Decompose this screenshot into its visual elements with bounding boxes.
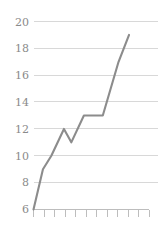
ytick-label-10: 10 bbox=[15, 150, 29, 163]
ytick-label-14: 14 bbox=[15, 96, 29, 109]
gridlines-group bbox=[34, 22, 159, 183]
chart-plot-area: 20 18 16 14 12 10 8 6 bbox=[0, 0, 158, 227]
data-line-series-1 bbox=[34, 35, 130, 210]
ytick-label-8: 8 bbox=[22, 176, 29, 189]
line-chart: 20 18 16 14 12 10 8 6 bbox=[0, 0, 158, 227]
y-axis-tick-labels: 20 18 16 14 12 10 8 6 bbox=[15, 16, 29, 217]
ytick-label-18: 18 bbox=[15, 42, 29, 55]
ytick-label-20: 20 bbox=[15, 16, 29, 29]
x-axis-tickmarks bbox=[34, 210, 150, 217]
ytick-label-12: 12 bbox=[15, 123, 29, 136]
ytick-label-6: 6 bbox=[22, 203, 29, 216]
ytick-label-16: 16 bbox=[15, 69, 29, 82]
